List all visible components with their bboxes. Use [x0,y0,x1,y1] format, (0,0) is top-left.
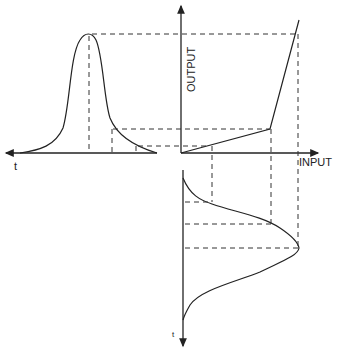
time-label-bottom: t [172,330,175,339]
input-axis-label: INPUT [299,156,332,168]
output-axis-label: OUTPUT [185,47,197,93]
output-pulse-curve [183,178,299,320]
time-label-left: t [14,160,17,172]
transfer-curve [181,20,299,153]
transfer-diagram: OUTPUT INPUT t t [0,0,349,355]
